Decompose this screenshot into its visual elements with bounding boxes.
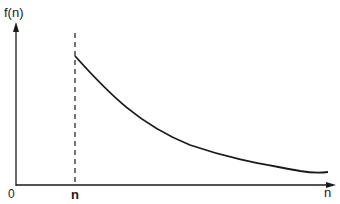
threshold-label: n xyxy=(71,187,79,202)
x-axis-label: n xyxy=(324,185,331,200)
distribution-curve xyxy=(75,56,328,173)
x-axis xyxy=(16,182,336,188)
pareto-like-distribution-figure: f(n) 0 n n xyxy=(0,0,340,204)
y-axis-arrowhead-icon xyxy=(13,22,19,32)
y-axis xyxy=(13,22,19,186)
y-axis-label: f(n) xyxy=(4,5,24,20)
origin-label: 0 xyxy=(8,187,15,201)
